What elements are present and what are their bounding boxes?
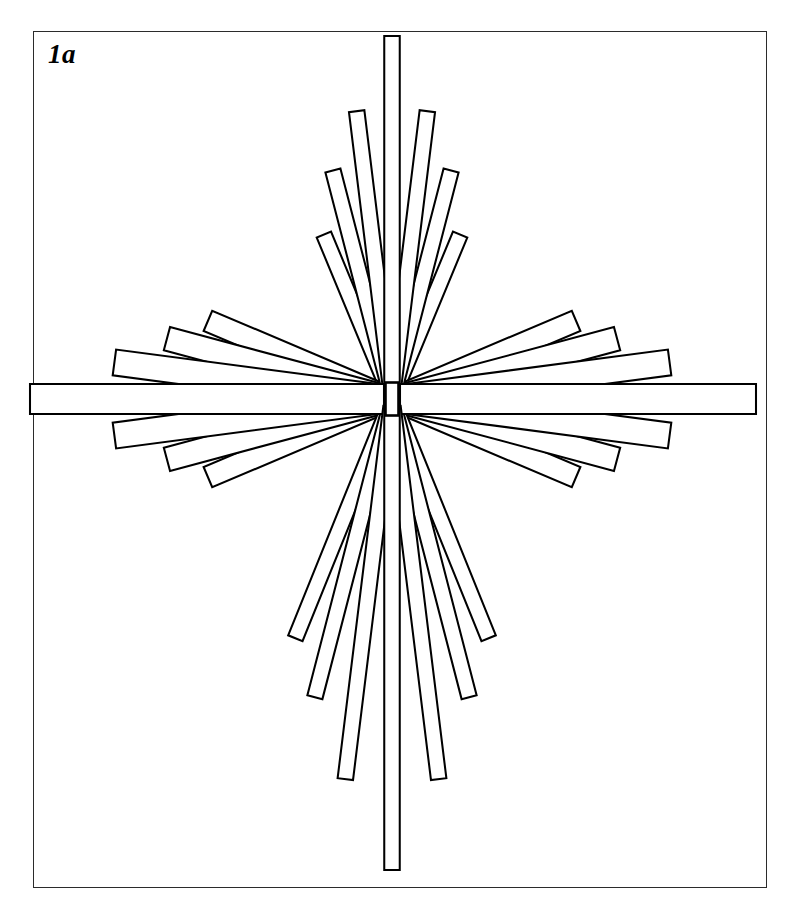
bar-right-0 bbox=[400, 384, 756, 414]
bar-bottom-0 bbox=[384, 407, 400, 870]
center-hub bbox=[386, 383, 399, 416]
center-hub-rect bbox=[386, 383, 399, 416]
bar-top-0 bbox=[384, 36, 400, 391]
bar-left-0 bbox=[30, 384, 384, 414]
radial-bar-fan-diagram bbox=[0, 0, 790, 900]
bars-layer bbox=[30, 36, 756, 870]
figure-panel: 1a bbox=[0, 0, 790, 900]
panel-label: 1a bbox=[48, 40, 76, 70]
